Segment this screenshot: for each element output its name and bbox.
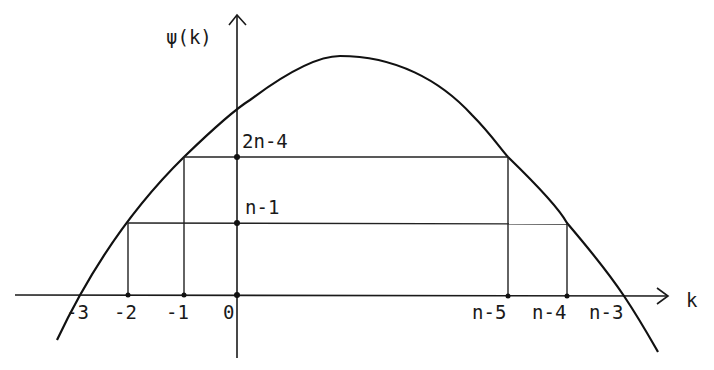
dot-tick-n-5: [506, 294, 511, 299]
x-tick-label-minus-1: -1: [166, 301, 189, 323]
x-tick-label-minus-2: -2: [114, 301, 137, 323]
psi-curve: [57, 56, 658, 352]
y-axis-label: ψ(k): [166, 26, 212, 48]
x-tick-label-0: 0: [223, 301, 234, 323]
y-level-label-2n-4: 2n-4: [242, 130, 288, 152]
x-tick-label-n-5: n-5: [472, 301, 506, 323]
dot-tick-minus-1: [182, 293, 187, 298]
x-tick-label-n-4: n-4: [532, 301, 566, 323]
dot-tick-n-4: [565, 294, 570, 299]
dot-2n-4-on-y-axis: [234, 154, 240, 160]
dot-origin: [234, 292, 240, 298]
level-line-n-1: [128, 223, 567, 224]
x-axis-line: [15, 295, 668, 296]
x-tick-label-n-3: n-3: [589, 301, 623, 323]
x-tick-label-minus-3: -3: [66, 301, 89, 323]
marker-dots: [126, 154, 570, 299]
x-axis-label: k: [686, 289, 698, 311]
dot-tick-minus-2: [126, 293, 131, 298]
dot-n-1-on-y-axis: [234, 220, 240, 226]
y-level-label-n-1: n-1: [245, 196, 279, 218]
psi-function-diagram: k ψ(k) 2n-4 n-1 -3 -2 -1 0 n-5 n-4 n-3: [0, 0, 714, 370]
